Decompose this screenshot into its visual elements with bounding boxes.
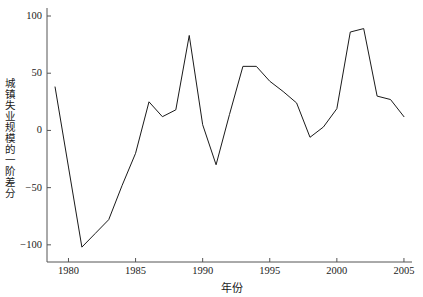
chart-figure: −100−50050100 198019851990199520002005 城… — [0, 0, 423, 297]
y-tick-label: 100 — [0, 11, 42, 22]
y-tick-label: −100 — [0, 240, 42, 251]
x-tick-marks — [68, 258, 403, 262]
x-tick-label: 1985 — [125, 266, 146, 277]
x-tick-label: 1980 — [58, 266, 79, 277]
y-axis-title: 城镇失业规模的一阶差分 — [3, 78, 17, 199]
y-tick-marks — [47, 16, 51, 245]
x-tick-label: 1995 — [259, 266, 280, 277]
x-axis-title: 年份 — [221, 279, 243, 295]
x-tick-label: 1990 — [192, 266, 213, 277]
x-tick-label: 2005 — [393, 266, 414, 277]
chart-plot-area — [0, 0, 423, 297]
chart-axes — [47, 8, 412, 262]
data-series-line — [55, 29, 404, 248]
x-tick-label: 2000 — [326, 266, 347, 277]
